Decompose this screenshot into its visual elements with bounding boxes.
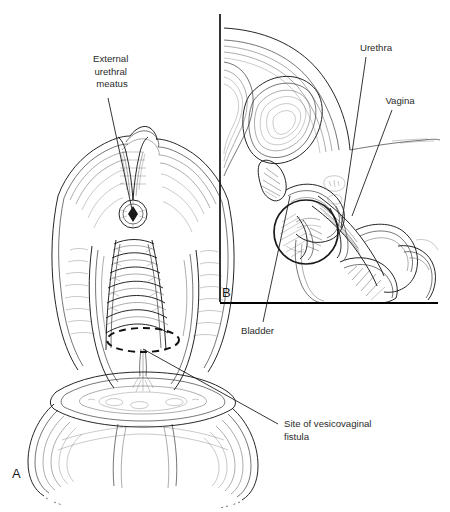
label-line: Vagina xyxy=(385,95,415,106)
figure-root: Vesicovaginal fistula Two-panel medical … xyxy=(0,0,450,512)
illustration-canvas: Vesicovaginal fistula Two-panel medical … xyxy=(0,0,450,512)
label-line: Bladder xyxy=(241,325,275,336)
panel-letter-b: B xyxy=(222,285,231,300)
panel-letter-a: A xyxy=(12,466,21,481)
label-vagina: Vagina xyxy=(385,95,415,106)
label-line: Site of vesicovaginal xyxy=(284,418,371,429)
label-line: urethral xyxy=(94,66,127,77)
label-line: meatus xyxy=(96,78,128,89)
label-urethra: Urethra xyxy=(360,42,393,53)
label-bladder: Bladder xyxy=(241,325,275,336)
label-line: Urethra xyxy=(360,42,393,53)
label-line: fistula xyxy=(284,431,310,442)
label-external-urethral-meatus: External urethral meatus xyxy=(93,53,131,89)
canvas-background xyxy=(0,0,450,512)
label-line: External xyxy=(93,53,128,64)
